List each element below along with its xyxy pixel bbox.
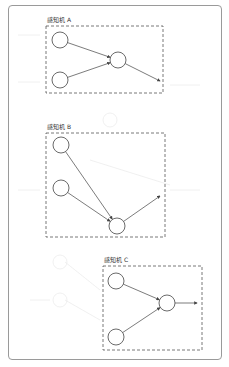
input-node-2 xyxy=(53,180,69,196)
output-node xyxy=(109,218,125,234)
output-node xyxy=(159,295,175,311)
input-node-1 xyxy=(52,32,68,48)
perceptron-b xyxy=(46,133,165,237)
output-node xyxy=(110,52,126,68)
perceptron-label-c: 感知机 C xyxy=(104,257,128,263)
perceptron-label-a: 感知机 A xyxy=(47,17,71,23)
perceptron-label-b: 感知机 B xyxy=(47,124,71,130)
input-edge xyxy=(123,284,159,299)
input-edge xyxy=(123,308,160,333)
output-edge xyxy=(125,64,160,81)
input-edge xyxy=(68,63,110,78)
output-edge xyxy=(124,196,160,221)
input-node-2 xyxy=(52,72,68,88)
input-node-2 xyxy=(108,329,124,345)
input-edge xyxy=(66,152,113,219)
perceptron-c xyxy=(103,266,202,350)
perceptron-a xyxy=(46,26,163,93)
diagram-canvas xyxy=(0,0,229,367)
input-edge xyxy=(68,43,110,58)
input-node-1 xyxy=(108,273,124,289)
input-node-1 xyxy=(53,137,69,153)
